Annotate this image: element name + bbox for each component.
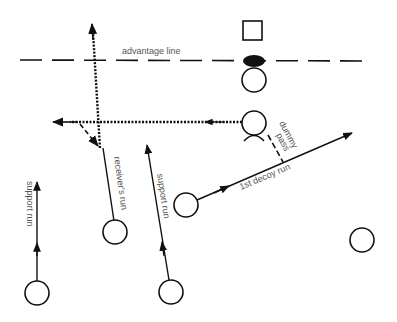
player-circle-scrum-half xyxy=(242,68,266,92)
player-circle-passer xyxy=(242,111,266,135)
advantage-line-label: advantage line xyxy=(122,46,181,56)
player-circle-receiver xyxy=(103,220,127,244)
player-circle-support-middle xyxy=(159,280,183,304)
receivers-run-label: receiver's run xyxy=(112,156,129,211)
advantage-line xyxy=(20,60,372,61)
dashed-switch-line xyxy=(80,124,98,146)
passer-arc-icon xyxy=(244,136,264,142)
rugby-play-diagram: advantage line receiver's run support ru… xyxy=(0,0,397,322)
wavy-break-line xyxy=(93,32,100,148)
player-circle-support-left xyxy=(25,281,49,305)
first-decoy-run-label: 1st decoy run xyxy=(238,162,292,192)
player-circle-winger xyxy=(350,228,374,252)
first-decoy-mid-arrow xyxy=(214,186,229,193)
support-run-left-label: support run xyxy=(25,181,35,227)
break-arrow-up xyxy=(92,24,93,40)
ball-icon xyxy=(243,55,265,67)
player-circle-first-decoy xyxy=(174,193,198,217)
opponent-square-icon xyxy=(243,21,262,40)
